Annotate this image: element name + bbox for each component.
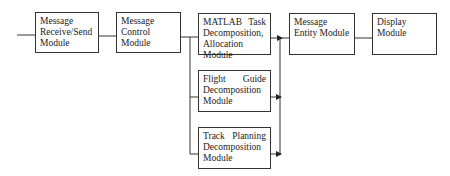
- node-label: Flight Guide Decomposition Module: [203, 74, 266, 107]
- message-entity-module: Message Entity Module: [289, 13, 355, 55]
- node-label: Track Planning Decomposition Module: [203, 131, 266, 164]
- track-planning-decomposition-module: Track Planning Decomposition Module: [198, 127, 271, 169]
- node-label: Message Entity Module: [294, 17, 350, 39]
- node-label: Message Control Module: [121, 16, 176, 49]
- matlab-task-decomposition-allocation-module: MATLAB Task Decomposition, Allocation Mo…: [198, 13, 271, 55]
- node-label: Display Module: [377, 17, 432, 39]
- message-control-module: Message Control Module: [116, 12, 181, 53]
- flight-guide-decomposition-module: Flight Guide Decomposition Module: [198, 70, 271, 112]
- message-receive-send-module: Message Receive/Send Module: [35, 12, 99, 53]
- node-label: Message Receive/Send Module: [40, 16, 94, 49]
- display-module: Display Module: [372, 13, 437, 55]
- node-label: MATLAB Task Decomposition, Allocation Mo…: [203, 17, 266, 61]
